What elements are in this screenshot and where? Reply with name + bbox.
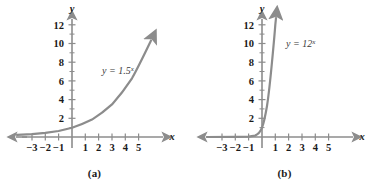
y-tick-label: 4 [59, 94, 65, 105]
x-axis-label: x [358, 131, 364, 142]
x-tick-label: −2 [230, 142, 241, 153]
y-tick-label: 6 [249, 76, 254, 87]
exponential-graphs-figure: −3 −2 −1 1 2 3 4 5 2 4 6 8 10 12 x y y = [0, 0, 379, 183]
x-tick-label: 2 [96, 142, 101, 153]
x-tick-label: 5 [136, 142, 141, 153]
y-tick-label: 6 [59, 76, 64, 87]
x-tick-label: 1 [83, 142, 88, 153]
equation-label-b: y = 12x [285, 38, 316, 50]
x-axis-label: x [168, 131, 174, 142]
equation-base: y = 12 [285, 38, 312, 49]
panel-b: −3 −2 −1 1 2 3 4 5 2 4 6 8 10 12 x y y =… [190, 0, 379, 183]
x-tick-label: 4 [123, 142, 129, 153]
y-tick-label: 10 [54, 38, 65, 49]
equation-label-a: y = 1.5x [101, 65, 135, 77]
x-tick-label: 2 [286, 142, 291, 153]
plot-a: −3 −2 −1 1 2 3 4 5 2 4 6 8 10 12 x y y = [0, 0, 189, 160]
x-tick-label: 4 [313, 142, 319, 153]
panel-a: −3 −2 −1 1 2 3 4 5 2 4 6 8 10 12 x y y = [0, 0, 189, 183]
y-axis-label: y [258, 3, 265, 14]
x-tick-label: −3 [216, 142, 227, 153]
y-axis-label: y [68, 3, 75, 14]
y-tick-label: 10 [244, 38, 255, 49]
curve-a [17, 41, 151, 135]
y-tick-label: 8 [59, 57, 64, 68]
y-tick-label: 8 [249, 57, 254, 68]
plot-b: −3 −2 −1 1 2 3 4 5 2 4 6 8 10 12 x y y =… [190, 0, 379, 160]
caption-a: (a) [0, 167, 189, 179]
y-tick-label: 2 [59, 113, 64, 124]
x-tick-label: −1 [53, 142, 64, 153]
x-tick-label: 5 [326, 142, 331, 153]
caption-b: (b) [190, 167, 379, 179]
x-tick-label: 3 [109, 142, 114, 153]
y-tick-label: 4 [249, 94, 255, 105]
x-tick-label: −1 [243, 142, 254, 153]
equation-base: y = 1.5 [101, 65, 131, 76]
equation-exponent: x [130, 65, 135, 73]
curve-b [207, 18, 276, 137]
x-tick-label: 3 [299, 142, 304, 153]
equation-exponent: x [311, 38, 316, 46]
y-tick-label: 12 [244, 20, 255, 31]
x-tick-label: 1 [273, 142, 278, 153]
y-tick-label: 12 [54, 20, 65, 31]
x-tick-label: −2 [40, 142, 51, 153]
y-tick-label: 2 [249, 113, 254, 124]
x-tick-label: −3 [26, 142, 37, 153]
